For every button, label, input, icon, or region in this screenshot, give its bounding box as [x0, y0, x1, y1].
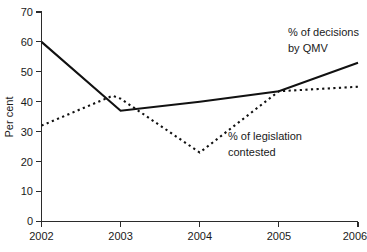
- annotation-contested-line1: % of legislation: [228, 130, 302, 142]
- y-tick-label: 50: [21, 66, 33, 78]
- x-tick-label: 2004: [188, 230, 212, 242]
- annotation-qmv: % of decisions by QMV: [288, 26, 359, 54]
- x-axis-ticks: 2002 2003 2004 2005 2006: [29, 222, 367, 243]
- x-tick-label: 2002: [29, 230, 53, 242]
- chart-canvas: 70 60 50 40 30 20 10 0 2002 2003 2004: [0, 0, 367, 252]
- annotation-contested: % of legislation contested: [228, 130, 302, 158]
- y-axis-ticks: 70 60 50 40 30 20 10 0: [21, 6, 42, 227]
- y-tick-label: 70: [21, 6, 33, 18]
- series-line-contested: [42, 87, 359, 153]
- y-tick-label: 30: [21, 126, 33, 138]
- y-tick-label: 10: [21, 185, 33, 197]
- x-tick-label: 2006: [343, 230, 367, 242]
- annotation-contested-line2: contested: [228, 146, 276, 158]
- y-axis-title: Per cent: [3, 97, 15, 138]
- line-chart: 70 60 50 40 30 20 10 0 2002 2003 2004: [0, 0, 367, 252]
- y-tick-label: 0: [27, 215, 33, 227]
- x-tick-label: 2003: [108, 230, 132, 242]
- annotation-qmv-line1: % of decisions: [288, 26, 359, 38]
- annotation-qmv-line2: by QMV: [288, 42, 328, 54]
- y-tick-label: 20: [21, 156, 33, 168]
- y-tick-label: 60: [21, 36, 33, 48]
- y-tick-label: 40: [21, 96, 33, 108]
- x-tick-label: 2005: [267, 230, 291, 242]
- series-group: [42, 42, 359, 153]
